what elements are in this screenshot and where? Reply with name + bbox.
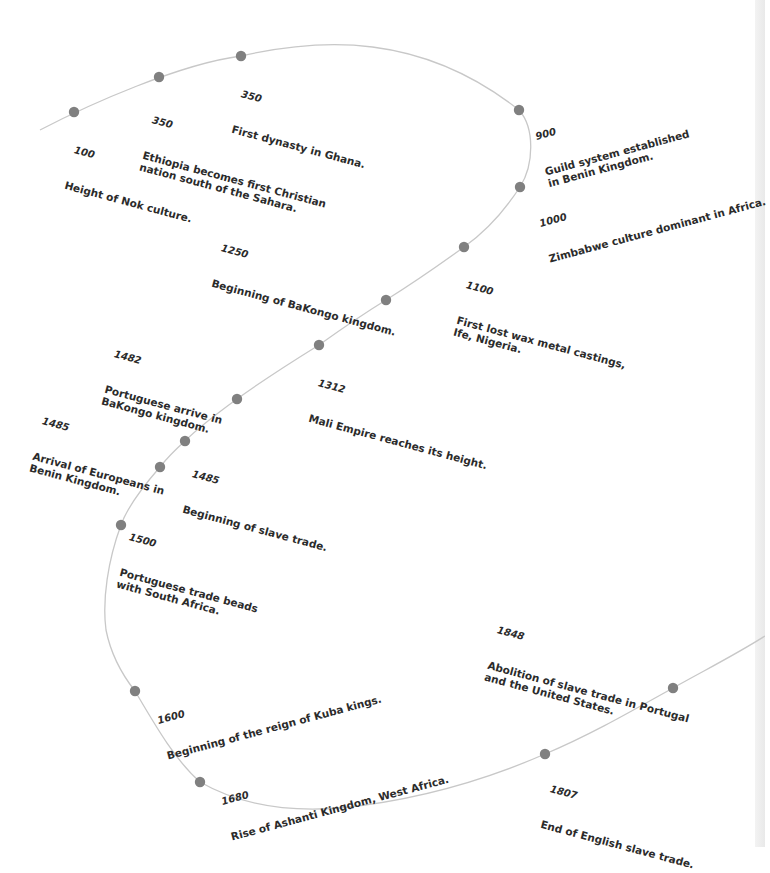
event-dot-1807	[540, 749, 550, 759]
event-year: 350	[240, 88, 376, 135]
event-dot-350-ghana	[236, 51, 246, 61]
event-dot-350-ethiopia	[154, 72, 164, 82]
event-dot-900	[514, 105, 524, 115]
event-dot-1482	[232, 394, 242, 404]
event-dot-1600	[130, 686, 140, 696]
event-dot-100	[69, 107, 79, 117]
event-dot-1100	[459, 242, 469, 252]
event-year: 1482	[113, 348, 233, 391]
event-dot-1680	[195, 777, 205, 787]
event-year: 1485	[41, 415, 175, 462]
event-dot-1000	[515, 182, 525, 192]
event-dot-1500	[116, 520, 126, 530]
event-dot-1312	[314, 340, 324, 350]
